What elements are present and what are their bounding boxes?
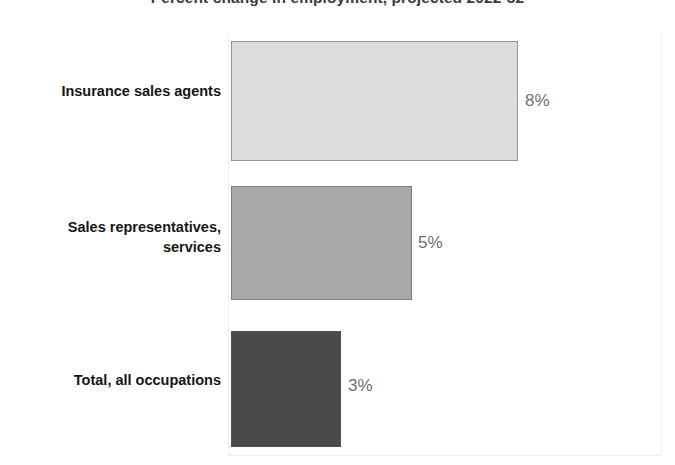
bar-row: Total, all occupations 3%: [0, 331, 675, 447]
bar-category-label-line2: services: [0, 237, 221, 257]
bar-value-label: 3%: [348, 376, 373, 396]
bar-chart-figure: Percent change in employment, projected …: [0, 0, 675, 465]
bar-value-label: 8%: [525, 91, 550, 111]
bar-category-label-line1: Total, all occupations: [74, 372, 221, 388]
bar-segment: [231, 186, 412, 300]
bar-value-label: 5%: [418, 233, 443, 253]
bar-category-label: Total, all occupations: [0, 370, 221, 390]
bar-category-label-line1: Sales representatives,: [0, 217, 221, 237]
bar-row: Sales representatives, services 5%: [0, 186, 675, 300]
bar-category-label: Sales representatives, services: [0, 217, 221, 257]
chart-title: Percent change in employment, projected …: [0, 0, 675, 7]
bar-segment: [231, 331, 341, 447]
bar-row: Insurance sales agents 8%: [0, 41, 675, 161]
bar-category-label-line1: Insurance sales agents: [61, 83, 221, 99]
bar-category-label: Insurance sales agents: [0, 81, 221, 101]
bar-segment: [231, 41, 518, 161]
